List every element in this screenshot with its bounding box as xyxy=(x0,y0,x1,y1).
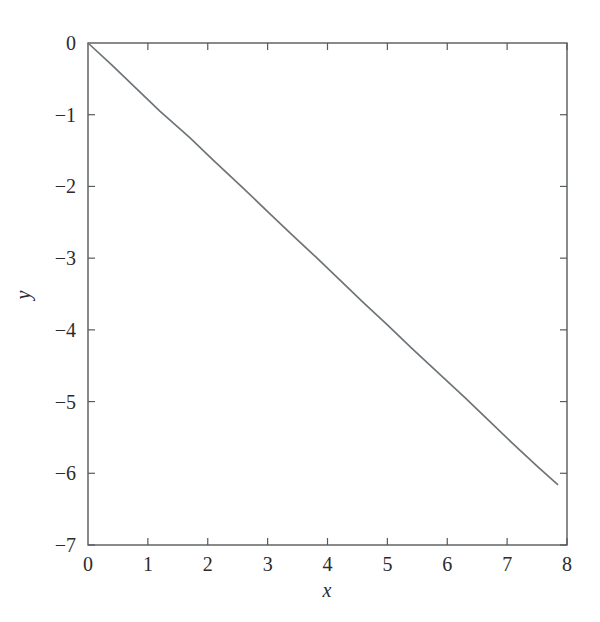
y-tick-label: −4 xyxy=(55,319,76,341)
y-tick-label: −2 xyxy=(55,175,76,197)
y-axis-tick-labels: 0−1−2−3−4−5−6−7 xyxy=(55,32,76,556)
x-tick-label: 8 xyxy=(562,553,572,575)
y-tick-label: 0 xyxy=(66,32,76,54)
y-tick-label: −5 xyxy=(55,391,76,413)
chart-figure: 012345678 0−1−2−3−4−5−6−7 x y xyxy=(0,0,600,622)
x-tick-label: 1 xyxy=(143,553,153,575)
x-tick-label: 2 xyxy=(203,553,213,575)
x-tick-label: 6 xyxy=(442,553,452,575)
x-tick-label: 4 xyxy=(323,553,333,575)
y-tick-label: −6 xyxy=(55,462,76,484)
data-series-line xyxy=(88,43,558,485)
y-axis-ticks xyxy=(88,115,567,545)
x-axis-tick-labels: 012345678 xyxy=(83,553,572,575)
y-tick-label: −7 xyxy=(55,534,76,556)
x-axis-title: x xyxy=(322,579,332,601)
y-axis-title: y xyxy=(12,290,35,301)
x-tick-label: 0 xyxy=(83,553,93,575)
line-chart: 012345678 0−1−2−3−4−5−6−7 x y xyxy=(0,0,600,622)
x-tick-label: 5 xyxy=(382,553,392,575)
x-tick-label: 3 xyxy=(263,553,273,575)
plot-box-border xyxy=(88,43,567,545)
y-tick-label: −1 xyxy=(55,104,76,126)
y-tick-label: −3 xyxy=(55,247,76,269)
x-tick-label: 7 xyxy=(502,553,512,575)
x-axis-ticks xyxy=(148,43,567,545)
